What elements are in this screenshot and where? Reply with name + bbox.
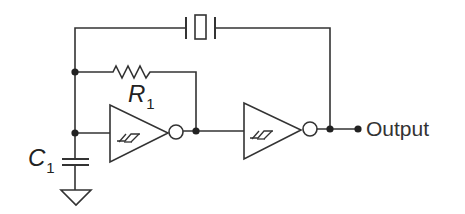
crystal-icon — [186, 15, 215, 39]
ground-icon — [61, 190, 91, 205]
schmitt-inverter-1-icon — [110, 105, 183, 162]
c1-label: C1 — [28, 146, 55, 173]
r1-label: R1 — [128, 82, 155, 109]
schematic-drawing — [0, 0, 465, 214]
schmitt-inverter-2-icon — [244, 103, 317, 159]
crystal-feedback-path — [75, 28, 330, 133]
output-label: Output — [366, 118, 429, 140]
circuit-diagram: R1 C1 Output — [0, 0, 465, 214]
junction-dots — [71, 68, 361, 136]
capacitor-icon — [62, 133, 89, 190]
